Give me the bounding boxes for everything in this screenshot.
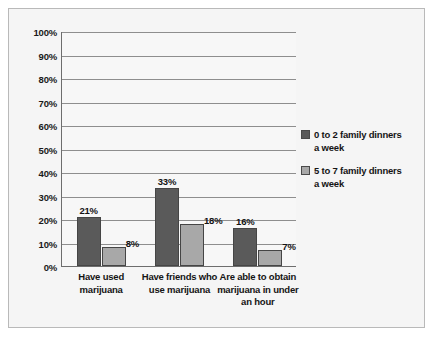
y-axis-tick-label: 50% [39,144,57,155]
legend-item: 5 to 7 family dinners a week [301,165,421,190]
bar-value-label: 33% [158,176,176,187]
bar: 8% [102,247,126,266]
y-axis-tick-label: 70% [39,97,57,108]
y-axis-tick-label: 100% [34,27,58,38]
y-axis-tick-label: 60% [39,121,57,132]
plot-area: 0%10%20%30%40%50%60%70%80%90%100%21%8%Ha… [61,32,296,267]
category-label-line: use marijuana [149,284,210,295]
y-axis-tick-label: 10% [39,238,57,249]
legend-label-line: a week [314,142,344,153]
category-label-line: marijuana [80,284,123,295]
category-label-line: Have friends who [142,271,217,282]
bar-value-label: 21% [79,205,97,216]
bar-value-label: 8% [126,238,139,249]
bar: 16% [233,228,257,266]
legend-label-line: a week [314,178,344,189]
y-axis-tick-label: 90% [39,50,57,61]
bar-value-label: 16% [236,216,254,227]
legend-label-line: 0 to 2 family dinners [314,129,402,140]
legend-label-series-1: 5 to 7 family dinners a week [314,165,402,190]
bar-value-label: 7% [282,241,295,252]
legend-label-series-0: 0 to 2 family dinners a week [314,129,402,154]
category-label-line: an hour [241,296,274,307]
bar-group: 21%8%Have usedmarijuana [62,32,140,266]
bar-group: 33%18%Have friends whouse marijuana [140,32,218,266]
category-label-line: Are able to obtain [220,271,297,282]
chart-figure: 0%10%20%30%40%50%60%70%80%90%100%21%8%Ha… [8,8,425,328]
category-label-line: marijuana in under [217,284,298,295]
bar: 18% [180,224,204,266]
bar: 33% [155,188,179,266]
y-axis-tick-label: 80% [39,74,57,85]
legend-swatch-series-1 [301,166,310,175]
bar-group: 16%7%Are able to obtainmarijuana in unde… [219,32,297,266]
bar: 21% [77,217,101,266]
legend-label-line: 5 to 7 family dinners [314,165,402,176]
x-axis-category-label: Are able to obtainmarijuana in underan h… [211,271,305,309]
category-label-line: Have used [78,271,124,282]
legend-swatch-series-0 [301,130,310,139]
bar: 7% [258,250,282,266]
legend-item: 0 to 2 family dinners a week [301,129,421,154]
chart-legend: 0 to 2 family dinners a week 5 to 7 fami… [301,129,421,201]
y-axis-tick-label: 30% [39,191,57,202]
y-axis-tick-label: 40% [39,168,57,179]
y-axis-tick-label: 20% [39,215,57,226]
